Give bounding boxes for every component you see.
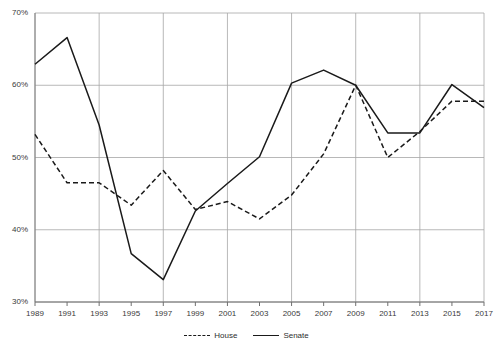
y-axis-tick-label: 30%	[2, 297, 28, 306]
series-line-senate	[35, 38, 484, 280]
legend-label-house: House	[214, 331, 237, 340]
legend-item-senate: Senate	[253, 331, 308, 340]
legend-label-senate: Senate	[283, 331, 308, 340]
solid-line-icon	[253, 335, 279, 336]
x-axis-tick-label: 2017	[464, 309, 498, 318]
y-axis-tick-label: 50%	[2, 153, 28, 162]
series-line-house	[35, 85, 484, 219]
dashed-line-icon	[184, 335, 210, 336]
chart-legend: House Senate	[0, 326, 493, 344]
legend-item-house: House	[184, 331, 237, 340]
y-axis-tick-label: 70%	[2, 8, 28, 17]
y-axis-tick-label: 40%	[2, 225, 28, 234]
y-axis-tick-label: 60%	[2, 80, 28, 89]
